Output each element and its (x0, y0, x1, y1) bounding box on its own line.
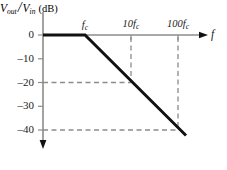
x-tick-label-10fc: 10fc (113, 19, 149, 30)
y-tick-label-minus20: –20 (4, 77, 34, 88)
x-tick-10fc-base: 10f (123, 18, 136, 29)
x-tick-100fc-base: 100f (167, 18, 186, 29)
x-axis-arrowhead (199, 32, 208, 39)
x-tick-label-fc: fc (69, 20, 101, 31)
y-tick-label-minus30: –30 (4, 100, 34, 111)
y-tick-label-minus10: –10 (4, 53, 34, 64)
y-tick-label-minus40: –40 (4, 124, 34, 135)
y-axis (40, 12, 47, 149)
vin-subscript: in (30, 7, 36, 16)
x-axis-title: f (211, 29, 214, 41)
x-tick-100fc-sub: c (186, 22, 189, 31)
y-tick-label-0: 0 (4, 29, 34, 40)
y-axis-arrowhead (40, 140, 47, 149)
construction-dashed-lines (43, 37, 178, 130)
vout-subscript: out (7, 7, 17, 16)
response-curve (43, 35, 186, 136)
x-tick-label-100fc: 100fc (157, 19, 199, 30)
x-tick-fc-sub: c (85, 23, 88, 32)
x-axis-ticks (131, 35, 178, 40)
bode-plot-figure: 0 –10 –20 –30 –40 fc 10fc 100fc f Vout/V… (0, 0, 227, 170)
x-tick-10fc-sub: c (136, 22, 139, 31)
